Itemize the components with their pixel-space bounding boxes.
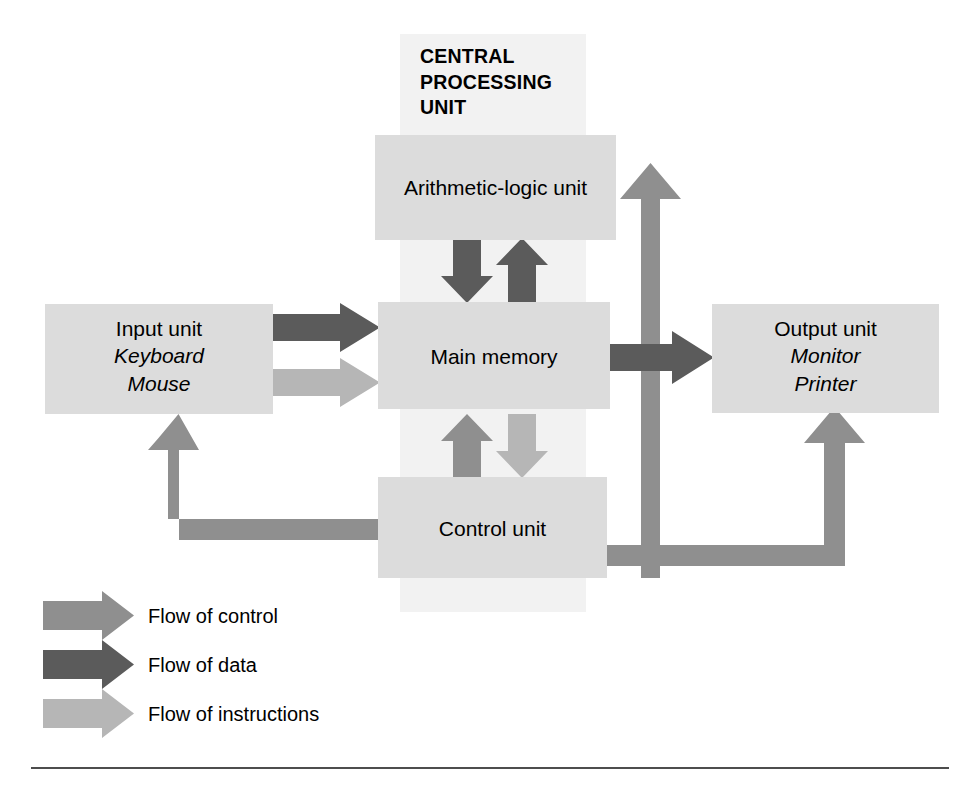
- box-main-memory[interactable]: [378, 302, 610, 409]
- bottom-rule: [31, 767, 949, 769]
- cpu-title-line-2: PROCESSING: [420, 70, 552, 96]
- box-arithmetic-logic-unit[interactable]: [375, 135, 616, 240]
- diagram-canvas: CENTRAL PROCESSING UNIT Arithmetic-logic…: [0, 0, 977, 801]
- flow-main-memory-to-output-unit-data: [608, 331, 714, 384]
- cpu-title-line-1: CENTRAL: [420, 44, 552, 70]
- box-output-unit[interactable]: [712, 304, 939, 413]
- legend-label-data: Flow of data: [148, 654, 257, 677]
- box-control-unit[interactable]: [378, 477, 607, 578]
- legend-label-instructions: Flow of instructions: [148, 703, 319, 726]
- legend-swatch-instructions: [43, 689, 134, 738]
- box-input-unit[interactable]: [45, 304, 273, 414]
- flow-input-unit-to-main-memory-instructions: [272, 358, 380, 407]
- flow-control-unit-to-input-unit: [148, 414, 385, 540]
- legend-swatch-control: [43, 591, 134, 640]
- legend-swatch-data: [43, 640, 134, 689]
- cpu-title-line-3: UNIT: [420, 95, 552, 121]
- flow-input-unit-to-main-memory-data: [272, 303, 380, 352]
- cpu-title: CENTRAL PROCESSING UNIT: [420, 44, 552, 121]
- legend-label-control: Flow of control: [148, 605, 278, 628]
